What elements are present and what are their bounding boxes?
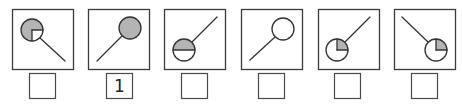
answer-box-4[interactable] bbox=[259, 74, 285, 99]
sequence-puzzle: 1 bbox=[0, 0, 462, 107]
circle-white bbox=[272, 18, 294, 40]
panel-1 bbox=[13, 10, 74, 99]
panel-2: 1 bbox=[89, 10, 150, 99]
answer-text-2: 1 bbox=[114, 76, 125, 96]
panel-frame bbox=[319, 10, 380, 70]
panel-5 bbox=[319, 10, 380, 99]
panel-3 bbox=[165, 10, 226, 99]
answer-box-1[interactable] bbox=[30, 74, 56, 99]
panel-4 bbox=[242, 10, 303, 99]
answer-box-5[interactable] bbox=[335, 74, 361, 99]
panel-6 bbox=[395, 10, 456, 99]
answer-box-6[interactable] bbox=[412, 74, 438, 99]
answer-box-3[interactable] bbox=[182, 74, 208, 99]
circle-gray-full bbox=[119, 17, 141, 39]
